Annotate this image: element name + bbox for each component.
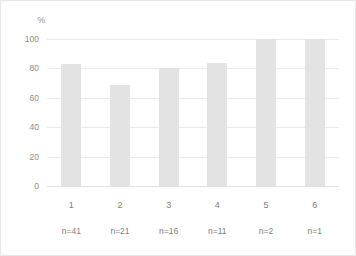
group-size-label: n=41 — [47, 225, 96, 237]
x-tick-label: 6 — [290, 199, 339, 211]
bar-chart-figure: % 020406080100 123456 n=41n=21n=16n=11n=… — [0, 0, 356, 256]
y-tick-label: 60 — [9, 94, 39, 103]
group-size-label: n=16 — [144, 225, 193, 237]
y-tick-label: 80 — [9, 64, 39, 73]
bar[interactable] — [159, 68, 179, 186]
y-tick-label: 100 — [9, 35, 39, 44]
group-size-label: n=1 — [290, 225, 339, 237]
y-tick-label: 40 — [9, 123, 39, 132]
y-tick-label: 20 — [9, 153, 39, 162]
bar-slot — [193, 39, 242, 186]
bar-slot — [242, 39, 291, 186]
bar-slot — [96, 39, 145, 186]
bar[interactable] — [61, 64, 81, 186]
bar-slot — [144, 39, 193, 186]
group-size-label: n=2 — [242, 225, 291, 237]
bar-slot — [290, 39, 339, 186]
y-tick-label: 0 — [9, 182, 39, 191]
bar[interactable] — [207, 63, 227, 186]
x-tick-label: 1 — [47, 199, 96, 211]
bar[interactable] — [110, 85, 130, 186]
bar[interactable] — [305, 39, 325, 186]
x-axis-category-labels: 123456 — [47, 199, 339, 213]
x-tick-label: 4 — [193, 199, 242, 211]
x-tick-label: 2 — [96, 199, 145, 211]
x-tick-label: 3 — [144, 199, 193, 211]
bar-slot — [47, 39, 96, 186]
x-tick-label: 5 — [242, 199, 291, 211]
gridline — [47, 186, 339, 187]
bars-group — [47, 39, 339, 186]
x-axis-group-size-labels: n=41n=21n=16n=11n=2n=1 — [47, 225, 339, 239]
bar[interactable] — [256, 39, 276, 186]
y-axis-unit-label: % — [27, 15, 45, 25]
group-size-label: n=11 — [193, 225, 242, 237]
plot-area — [47, 39, 339, 186]
group-size-label: n=21 — [96, 225, 145, 237]
